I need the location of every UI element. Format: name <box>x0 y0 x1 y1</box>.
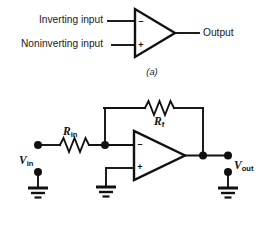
input-resistor-symbol: R <box>62 125 71 137</box>
circuit-diagram-canvas: – + Inverting input Noninverting input O… <box>0 0 271 227</box>
feedback-resistor-label: Rf <box>153 115 165 129</box>
earth-ground-icon-noninverting <box>96 187 116 197</box>
panel-a-caption: (a) <box>146 66 157 77</box>
output-label: Output <box>203 27 234 38</box>
noninverting-sign-label-b: + <box>137 162 142 172</box>
inverting-input-label: Inverting input <box>39 14 103 25</box>
feedback-resistor-symbol: R <box>153 115 162 127</box>
figure-root: – + Inverting input Noninverting input O… <box>0 0 271 227</box>
earth-ground-icon-output <box>218 168 238 198</box>
input-resistor-subscript: in <box>71 130 78 139</box>
panel-b-group: Rf Rin – + Vin Vout <box>19 101 254 198</box>
panel-a-group: – + Inverting input Noninverting input O… <box>21 9 234 77</box>
feedback-resistor-subscript: f <box>162 120 165 129</box>
earth-ground-icon-input <box>28 168 48 198</box>
input-terminal-dot <box>34 141 42 149</box>
input-source-subscript: in <box>27 159 34 168</box>
zigzag-resistor-icon-feedback <box>145 101 174 115</box>
inverting-sign-label: – <box>138 16 143 26</box>
output-voltage-label: Vout <box>234 159 254 173</box>
junction-dot-icon-output <box>199 152 207 160</box>
input-source-label: Vin <box>19 154 34 168</box>
noninverting-sign-label: + <box>138 40 143 50</box>
output-terminal-dot <box>224 152 232 160</box>
input-resistor-label: Rin <box>62 125 78 139</box>
zigzag-resistor-icon-input <box>60 138 89 152</box>
inverting-sign-label-b: – <box>137 139 142 149</box>
noninverting-input-label: Noninverting input <box>21 38 103 49</box>
junction-dot-icon-summing <box>101 141 109 149</box>
output-voltage-subscript: out <box>242 164 254 173</box>
triangle-amplifier-icon-b <box>134 131 185 180</box>
